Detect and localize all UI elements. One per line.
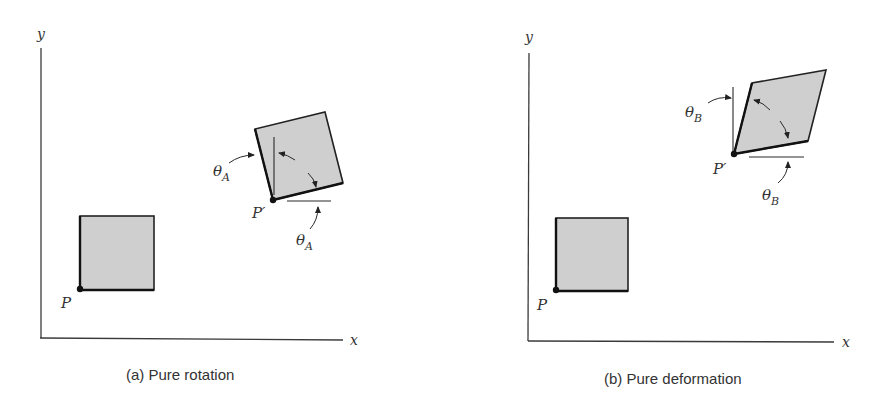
panel-b-deformed-element: P′ θB θB <box>685 70 826 208</box>
panel-a-caption: (a) Pure rotation <box>126 366 234 383</box>
panel-b-original-element: P <box>536 218 628 314</box>
panel-a-x-axis-label: x <box>350 332 358 348</box>
panel-a-original-square <box>80 216 154 290</box>
panel-a-y-axis-label: y <box>36 26 46 42</box>
panel-b-point-p-dot <box>553 287 559 293</box>
panel-b-deformed-rhombus <box>734 70 826 154</box>
panel-a-x-axis <box>40 338 343 340</box>
panel-b-theta-label-left: θB <box>685 103 702 125</box>
panel-a-pure-rotation: y x P P′ θA <box>36 26 358 383</box>
panel-a-rotated-element: P′ θA θA <box>213 112 343 253</box>
panel-a-point-p-prime-label: P′ <box>251 204 266 222</box>
panel-b-caption: (b) Pure deformation <box>604 370 742 387</box>
panel-b-x-axis-label: x <box>842 334 850 350</box>
panel-a-theta-label-left: θA <box>213 162 230 184</box>
panel-b-pure-deformation: y x P P′ θB <box>524 29 850 387</box>
panel-b-y-axis <box>528 53 529 341</box>
panel-a-theta-leader-left-icon <box>229 155 254 163</box>
panel-b-y-axis-label: y <box>524 29 534 45</box>
panel-b-original-square <box>556 218 628 291</box>
panel-a-theta-leader-bottom-icon <box>310 207 318 229</box>
fluid-element-motion-figure: y x P P′ θA <box>0 0 881 408</box>
panel-b-theta-leader-bottom-icon <box>778 162 788 183</box>
panel-b-x-axis <box>528 341 834 342</box>
panel-a-theta-label-bottom: θA <box>296 231 313 253</box>
panel-b-theta-leader-left-icon <box>708 98 731 103</box>
panel-a-point-p-dot <box>77 286 83 292</box>
panel-b-point-p-label: P <box>536 296 548 314</box>
panel-a-original-element: P <box>60 216 154 312</box>
panel-a-point-p-prime-dot <box>270 197 276 203</box>
panel-a-point-p-label: P <box>60 294 72 312</box>
panel-b-point-p-prime-dot <box>731 151 737 157</box>
panel-b-theta-label-bottom: θB <box>762 186 779 208</box>
panel-b-point-p-prime-label: P′ <box>712 160 727 178</box>
